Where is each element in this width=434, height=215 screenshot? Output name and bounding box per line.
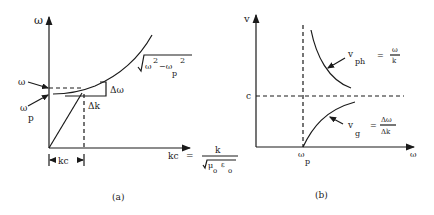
svg-text:2: 2 (180, 56, 185, 65)
svg-text:v: v (347, 120, 354, 130)
svg-text:k: k (392, 57, 397, 65)
omega-pointer-icon (28, 82, 48, 88)
omega-p-sub: p (28, 113, 34, 123)
y-axis-label: ω (34, 14, 43, 27)
omega-p-sub: p (305, 157, 310, 166)
vph-formula: v ph = ω k (347, 46, 400, 66)
omega-p-label: ω (298, 150, 305, 159)
omega-label: ω (18, 77, 25, 87)
omega-p-pointer-icon (28, 95, 48, 106)
svg-text:kc: kc (58, 156, 69, 166)
svg-text:−ω: −ω (159, 62, 173, 71)
svg-text:k: k (215, 145, 221, 155)
kc-bracket: kc (49, 154, 84, 166)
delta-omega-label: Δω (110, 85, 124, 95)
vph-pointer-icon (328, 58, 345, 68)
svg-text:2: 2 (153, 56, 158, 65)
c-label: c (246, 91, 251, 101)
svg-text:o: o (213, 167, 217, 175)
svg-text:ω: ω (145, 62, 152, 71)
svg-text:=: = (186, 151, 194, 161)
vg-formula: v g = Δω Δk (347, 116, 396, 138)
svg-text:v: v (347, 49, 354, 59)
svg-text:Δω: Δω (381, 116, 392, 124)
caption-a: (a) (112, 192, 124, 202)
x-axis-formula: kc = k μ o ε o (168, 145, 238, 175)
svg-text:ph: ph (355, 57, 365, 66)
caption-b: (b) (315, 190, 328, 200)
phase-velocity-curve (311, 30, 351, 88)
panel-b: v ω c ω p v ph = ω k v g = Δω Δk (b) (243, 13, 417, 200)
svg-text:kc: kc (168, 151, 179, 161)
delta-k-label: Δk (88, 101, 100, 111)
phase-line (49, 93, 82, 148)
svg-text:g: g (355, 129, 360, 138)
svg-text:=: = (370, 121, 377, 130)
svg-text:p: p (172, 69, 177, 78)
curve-formula: ω 2 −ω p 2 (138, 55, 192, 78)
vg-pointer-icon (330, 117, 343, 124)
dispersion-curve (53, 35, 152, 94)
y-axis-label: v (243, 13, 250, 24)
dispersion-diagram: ω ω ω p Δω Δk ω 2 −ω p 2 kc (0, 0, 434, 215)
svg-text:=: = (377, 51, 384, 60)
panel-a: ω ω ω p Δω Δk ω 2 −ω p 2 kc (18, 14, 238, 202)
svg-text:o: o (228, 167, 232, 175)
svg-text:Δk: Δk (381, 128, 391, 136)
omega-p-label: ω (20, 103, 27, 113)
x-axis-label: ω (410, 150, 417, 159)
svg-text:ε: ε (221, 161, 225, 169)
svg-text:ω: ω (392, 46, 398, 54)
